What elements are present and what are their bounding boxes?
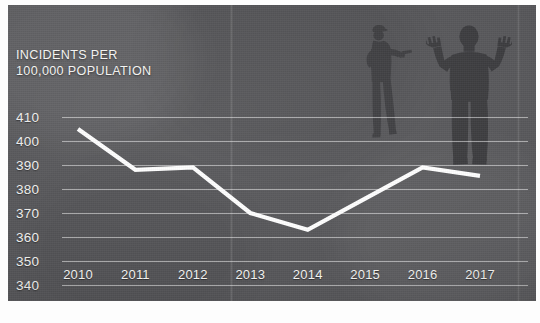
chart-image: 340350360370380390400410 201020112012201… — [0, 0, 540, 323]
data-series-line — [8, 5, 536, 301]
series-polyline — [78, 129, 480, 230]
photo-plate: 340350360370380390400410 201020112012201… — [8, 5, 536, 301]
